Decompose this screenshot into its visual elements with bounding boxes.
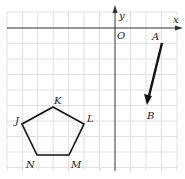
vertex-l-label: L xyxy=(86,113,94,124)
vertex-n-label: N xyxy=(25,159,36,170)
vector-arrowhead-icon xyxy=(144,94,152,105)
x-axis-label: x xyxy=(173,14,179,25)
x-axis-arrow-icon xyxy=(175,26,183,31)
vertex-m-label: M xyxy=(70,159,82,170)
coordinate-plane: x y O A B J K L M N xyxy=(0,0,185,179)
vertex-k-label: K xyxy=(53,95,62,106)
vertex-j-label: J xyxy=(13,115,20,126)
vector-ab xyxy=(144,43,162,105)
y-axis-arrow-icon xyxy=(113,5,118,13)
point-a-label: A xyxy=(151,31,159,42)
y-axis-label: y xyxy=(118,10,125,21)
point-b-label: B xyxy=(146,110,154,121)
origin-label: O xyxy=(117,30,125,41)
